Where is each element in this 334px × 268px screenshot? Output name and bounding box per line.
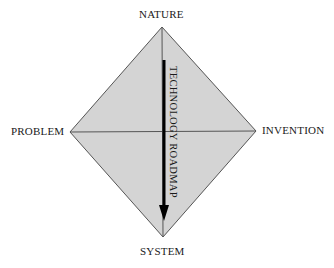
vertex-label-problem: PROBLEM (11, 125, 64, 137)
vertex-label-system: SYSTEM (140, 245, 185, 257)
arrow-label-technology-roadmap: TECHNOLOGY ROADMAP (167, 66, 179, 206)
vertex-label-invention: INVENTION (262, 124, 324, 136)
vertex-label-nature: NATURE (139, 8, 184, 20)
